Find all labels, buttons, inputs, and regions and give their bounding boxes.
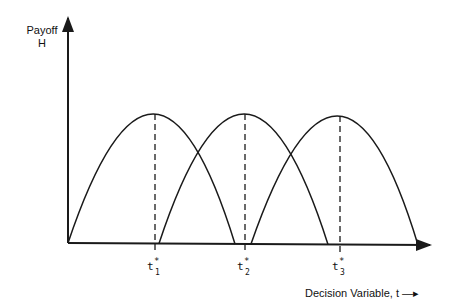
payoff-curves: [68, 114, 418, 245]
payoff-curve-1: [68, 114, 235, 244]
y-axis-label-h: H: [18, 37, 66, 50]
tick-label-t3: t*3: [332, 260, 339, 273]
optimum-dashed-lines: [155, 114, 340, 253]
tick-label-t2: t*2: [237, 260, 244, 273]
x-axis-label: Decision Variable, t —▸: [305, 287, 419, 300]
y-axis-label-payoff: Payoff: [18, 24, 66, 37]
y-axis-label: Payoff H: [18, 24, 66, 50]
payoff-diagram: [0, 0, 449, 305]
payoff-curve-2: [159, 114, 328, 244]
payoff-curve-3: [251, 116, 418, 245]
x-axis: [68, 243, 430, 245]
tick-label-t1: t*1: [147, 260, 154, 273]
